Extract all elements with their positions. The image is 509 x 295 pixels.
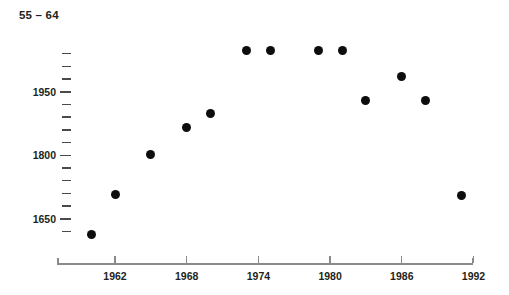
y-axis-tick-major — [60, 218, 71, 220]
data-point[interactable] — [361, 96, 370, 105]
x-axis-tick — [401, 256, 402, 263]
data-point[interactable] — [314, 46, 323, 55]
y-axis-tick-label: 1650 — [18, 213, 56, 225]
y-axis-tick-minor — [62, 78, 71, 80]
y-axis-tick-minor — [62, 205, 71, 207]
y-axis-tick-minor — [62, 129, 71, 131]
x-axis-tick-label: 1980 — [318, 270, 341, 282]
x-axis-tick — [329, 256, 330, 263]
y-axis-tick-minor — [62, 231, 71, 233]
y-axis-tick-minor — [62, 180, 71, 182]
x-axis-tick — [186, 256, 187, 263]
y-axis-tick-minor — [62, 104, 71, 106]
y-axis-tick-minor — [62, 53, 71, 55]
x-axis-line — [57, 263, 473, 265]
x-axis-tick-label: 1974 — [247, 270, 270, 282]
x-axis-tick-label: 1962 — [103, 270, 126, 282]
data-point[interactable] — [242, 46, 251, 55]
y-axis-tick-minor — [62, 167, 71, 169]
y-axis-tick-label: 1950 — [18, 86, 56, 98]
data-point[interactable] — [206, 109, 215, 118]
y-axis-tick-minor — [62, 142, 71, 144]
y-axis-tick-minor — [62, 66, 71, 68]
x-axis-tick — [258, 256, 259, 263]
data-point[interactable] — [266, 46, 275, 55]
x-axis-tick — [114, 256, 115, 263]
x-axis-tick-label: 1986 — [390, 270, 413, 282]
x-axis-tick-label: 1968 — [175, 270, 198, 282]
x-axis-tick — [473, 256, 474, 263]
data-point[interactable] — [182, 123, 191, 132]
y-axis-tick-major — [60, 155, 71, 157]
data-point[interactable] — [111, 190, 120, 199]
y-axis-tick-minor — [62, 116, 71, 118]
data-point[interactable] — [397, 72, 406, 81]
data-point[interactable] — [146, 150, 155, 159]
y-axis-tick-label: 1800 — [18, 149, 56, 161]
data-point[interactable] — [421, 96, 430, 105]
y-axis-tick-major — [60, 91, 71, 93]
y-axis-tick-minor — [62, 193, 71, 195]
scatter-chart: 55 – 64 165018001950 1962196819741980198… — [0, 0, 509, 295]
data-point[interactable] — [87, 230, 96, 239]
chart-title: 55 – 64 — [19, 9, 59, 21]
data-point[interactable] — [338, 46, 347, 55]
x-axis-tick-label: 1992 — [462, 270, 485, 282]
x-axis-cap-left — [57, 258, 59, 264]
data-point[interactable] — [457, 191, 466, 200]
